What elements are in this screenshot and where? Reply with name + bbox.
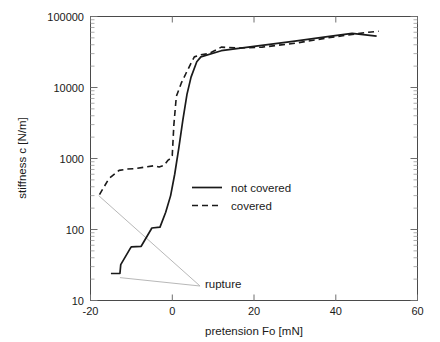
legend-label-not-covered: not covered: [231, 182, 291, 194]
x-tick-label: 40: [330, 305, 342, 317]
y-tick-label: 1000: [60, 153, 84, 165]
y-tick-label: 100000: [47, 11, 84, 23]
y-tick-label: 10000: [53, 82, 84, 94]
legend-label-covered: covered: [231, 200, 272, 212]
rupture-annotation-label: rupture: [205, 278, 241, 290]
stiffness-vs-pretension-chart: 10 100 1000 10000 100000 -20 0 20 40 60 …: [0, 0, 440, 342]
y-axis-title: stiffness c [N/m]: [16, 117, 28, 199]
x-axis-title: pretension Fo [mN]: [205, 325, 303, 337]
x-tick-label: 60: [411, 305, 423, 317]
x-tick-label: -20: [83, 305, 99, 317]
y-tick-label: 100: [66, 224, 84, 236]
x-tick-label: 0: [169, 305, 175, 317]
x-tick-label: 20: [248, 305, 260, 317]
